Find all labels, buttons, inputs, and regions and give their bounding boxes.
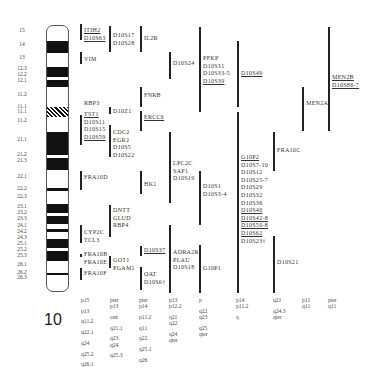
map-position: q23q24	[110, 335, 118, 347]
band-label: 21.1	[4, 136, 40, 142]
gene-group: VIM	[84, 56, 97, 64]
gene-label: D10S40	[241, 207, 268, 215]
map-position: p11q11	[302, 297, 310, 309]
map-position: p	[199, 297, 202, 303]
gene-group: ERCC6	[144, 114, 164, 122]
band-label: 26.3	[4, 274, 40, 280]
gene-label: TST1	[84, 111, 105, 119]
gene-group: D10S21	[277, 259, 298, 267]
gene-label: PFKP	[203, 55, 230, 63]
map-position: p13	[81, 308, 89, 314]
gene-group: D10S24	[173, 60, 194, 68]
gene-label: D10S59	[84, 134, 105, 142]
mapping-bar	[199, 245, 201, 293]
map-position: p15	[81, 297, 89, 303]
gene-label: D10S18	[173, 264, 199, 272]
gene-group: ITIH2D10S63	[84, 27, 105, 42]
mapping-bar	[80, 52, 82, 64]
centromere	[47, 107, 68, 117]
map-position: q25qter	[199, 325, 208, 337]
gene-label: PLAU	[173, 257, 199, 265]
mapping-bar	[140, 87, 142, 107]
band-p14	[47, 41, 68, 53]
gene-group: DNTTGLUDRBP4	[113, 207, 131, 230]
chromosome-ideogram	[46, 25, 69, 292]
gene-label: D10S21	[277, 259, 298, 267]
band-label: 22.1	[4, 173, 40, 179]
map-position: q22.1	[81, 329, 94, 335]
gene-label: D10S12	[241, 169, 268, 177]
map-position: q21q22	[169, 314, 177, 326]
band-label: 14	[4, 41, 40, 47]
gene-label: GLUD	[113, 215, 131, 223]
map-position: p11.2	[139, 314, 151, 320]
gene-label: FRA10B	[84, 251, 107, 259]
gene-label: D10S33-5	[203, 70, 230, 78]
mapping-bar	[273, 132, 275, 171]
band-label: 22.3	[4, 193, 40, 199]
gene-label: PGAM1	[113, 265, 135, 273]
band-q22.2	[47, 188, 68, 191]
map-position: q26	[139, 357, 147, 363]
gene-label: ERCC6	[144, 114, 164, 122]
map-position: p14p11.2	[236, 297, 248, 309]
gene-label: HK1	[144, 181, 157, 189]
band-q26.2	[47, 273, 68, 275]
map-position: q24qter	[169, 331, 178, 343]
gene-label: RBP4	[113, 222, 131, 230]
gene-label: MEN2B	[332, 74, 359, 82]
gene-label: D10S23†	[241, 238, 268, 246]
gene-label: RBP3	[84, 100, 100, 108]
band-p12.1	[47, 80, 68, 87]
mapping-bar	[80, 254, 82, 257]
gene-label: FRA10C	[277, 147, 300, 155]
mapping-bar	[80, 24, 82, 40]
band-label: 22.2	[4, 185, 40, 191]
gene-label: FNRB	[144, 92, 161, 100]
band-label: 11.2	[4, 117, 40, 123]
map-position: q26.1	[81, 361, 94, 367]
gene-label: SAP1	[173, 168, 194, 176]
map-position: q25.2	[81, 351, 94, 357]
gene-group: G10P2D10S7-10D10S12D10S25-7D10S29D10S32D…	[241, 154, 268, 245]
band-q23.1	[47, 204, 68, 213]
gene-label: ADRA2R	[173, 249, 199, 257]
band-label: 26.1	[4, 261, 40, 267]
mapping-bar	[302, 87, 304, 131]
mapping-bar	[328, 27, 330, 131]
gene-group: FRA10D	[84, 174, 108, 182]
gene-label: IL2R	[144, 35, 158, 43]
map-position: pterp13	[110, 297, 119, 309]
mapping-bar	[109, 256, 111, 268]
gene-label: D10S19	[173, 175, 194, 183]
map-position: q25.1	[139, 346, 152, 352]
mapping-bar	[140, 171, 142, 194]
gene-group: FRA10BFRA10E	[84, 251, 107, 266]
gene-label: D10S39	[203, 78, 230, 86]
gene-label: D10S50-8	[241, 222, 268, 230]
band-q23.3	[47, 216, 68, 224]
band-q21.3	[47, 158, 68, 170]
gene-group: D10S17D10S28	[113, 32, 134, 47]
mapping-bar	[109, 26, 111, 52]
band-q24.2	[47, 229, 68, 232]
gene-label: LPC2C	[173, 160, 194, 168]
gene-group: FRA10C	[277, 147, 300, 155]
gene-label: ITIH2	[84, 27, 105, 35]
gene-label: FRA10D	[84, 174, 108, 182]
mapping-bar	[109, 125, 111, 157]
gene-label: EGR2	[113, 137, 134, 145]
band-q25.1	[47, 239, 68, 248]
band-label: 12.1	[4, 77, 40, 83]
mapping-bar	[109, 107, 111, 114]
band-q21.1	[47, 132, 68, 155]
map-position: q22	[139, 335, 147, 341]
gene-label: D10S28	[113, 40, 134, 48]
gene-label: G10P2	[241, 154, 268, 162]
mapping-bar	[140, 267, 142, 290]
gene-label: DNTT	[113, 207, 131, 215]
mapping-bar	[169, 132, 171, 203]
gene-label: D10S42-8	[241, 215, 268, 223]
band-label: 15	[4, 27, 40, 33]
map-position: q24.3qter	[273, 308, 286, 320]
